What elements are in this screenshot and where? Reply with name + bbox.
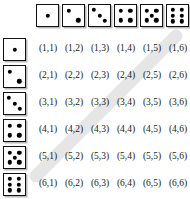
outcome-cell: (6,1) xyxy=(35,178,61,189)
die-pip xyxy=(8,188,12,192)
die-pip xyxy=(17,79,21,83)
die-pip xyxy=(7,69,11,73)
outcome-cell: (1,2) xyxy=(61,43,87,54)
die-pip xyxy=(97,13,101,17)
die-pip xyxy=(144,18,148,22)
die-pip xyxy=(180,7,184,11)
outcome-cell: (6,5) xyxy=(139,178,165,189)
die-pip xyxy=(8,176,12,180)
die-pip xyxy=(17,133,21,137)
die-pip xyxy=(7,150,11,154)
outcome-cell: (6,6) xyxy=(165,178,190,189)
outcome-cell: (2,3) xyxy=(87,70,113,81)
outcome-cell: (6,2) xyxy=(61,178,87,189)
die-pip xyxy=(7,160,11,164)
column-header-die-6 xyxy=(166,4,189,27)
row-header-die-2 xyxy=(3,65,26,88)
die-pip xyxy=(149,13,153,17)
die-pip xyxy=(128,9,132,13)
die-pip xyxy=(8,124,12,128)
die-pip xyxy=(8,133,12,137)
die-pip xyxy=(171,7,175,11)
outcome-cell: (2,6) xyxy=(165,70,190,81)
die-pip xyxy=(17,176,21,180)
outcome-cell: (5,2) xyxy=(61,151,87,162)
row-header-die-4 xyxy=(3,119,26,142)
die-pip xyxy=(7,96,11,100)
dice-sample-space-table: (1,1)(1,2)(1,3)(1,4)(1,5)(1,6)(2,1)(2,2)… xyxy=(0,0,190,199)
die-pip xyxy=(180,13,184,17)
outcome-cell: (2,2) xyxy=(61,70,87,81)
outcome-cell: (3,6) xyxy=(165,97,190,108)
column-header-die-2 xyxy=(62,4,85,27)
die-pip xyxy=(18,107,22,111)
outcome-cell: (3,2) xyxy=(61,97,87,108)
outcome-cell: (4,1) xyxy=(35,124,61,135)
row-header-die-3 xyxy=(3,92,26,115)
outcome-cell: (2,4) xyxy=(113,70,139,81)
outcome-cell: (5,1) xyxy=(35,151,61,162)
die-pip xyxy=(154,8,158,12)
outcome-cell: (5,4) xyxy=(113,151,139,162)
die-pip xyxy=(180,19,184,23)
outcome-cell: (3,4) xyxy=(113,97,139,108)
die-pip xyxy=(17,124,21,128)
outcome-cell: (1,5) xyxy=(139,43,165,54)
die-pip xyxy=(17,160,21,164)
die-pip xyxy=(92,8,96,12)
outcome-cell: (5,3) xyxy=(87,151,113,162)
outcome-cell: (3,1) xyxy=(35,97,61,108)
outcome-cell: (1,1) xyxy=(35,43,61,54)
outcome-cell: (4,2) xyxy=(61,124,87,135)
column-header-die-5 xyxy=(140,4,163,27)
outcome-cell: (6,4) xyxy=(113,178,139,189)
die-pip xyxy=(76,18,80,22)
die-pip xyxy=(12,47,16,51)
die-pip xyxy=(17,182,21,186)
column-header-die-4 xyxy=(114,4,137,27)
outcome-cell: (4,3) xyxy=(87,124,113,135)
die-pip xyxy=(154,18,158,22)
die-pip xyxy=(144,8,148,12)
die-pip xyxy=(12,155,16,159)
outcome-cell: (4,6) xyxy=(165,124,190,135)
outcome-cell: (5,5) xyxy=(139,151,165,162)
die-pip xyxy=(17,188,21,192)
outcome-cell: (4,5) xyxy=(139,124,165,135)
die-pip xyxy=(119,9,123,13)
die-pip xyxy=(171,13,175,17)
outcome-cell: (1,3) xyxy=(87,43,113,54)
outcome-cell: (3,5) xyxy=(139,97,165,108)
die-pip xyxy=(119,18,123,22)
outcome-cell: (1,4) xyxy=(113,43,139,54)
outcome-cell: (2,1) xyxy=(35,70,61,81)
row-header-die-1 xyxy=(3,38,26,61)
outcome-cell: (5,6) xyxy=(165,151,190,162)
row-header-die-6 xyxy=(3,173,26,196)
row-header-die-5 xyxy=(3,146,26,169)
outcome-cell: (6,3) xyxy=(87,178,113,189)
outcome-cell: (1,6) xyxy=(165,43,190,54)
die-pip xyxy=(171,19,175,23)
outcome-cell: (3,3) xyxy=(87,97,113,108)
die-pip xyxy=(17,150,21,154)
die-pip xyxy=(66,8,70,12)
outcome-cell: (4,4) xyxy=(113,124,139,135)
die-pip xyxy=(12,101,16,105)
die-pip xyxy=(128,18,132,22)
die-pip xyxy=(103,19,107,23)
column-header-die-1 xyxy=(36,4,59,27)
die-pip xyxy=(8,182,12,186)
column-header-die-3 xyxy=(88,4,111,27)
outcome-cell: (2,5) xyxy=(139,70,165,81)
die-pip xyxy=(45,13,49,17)
